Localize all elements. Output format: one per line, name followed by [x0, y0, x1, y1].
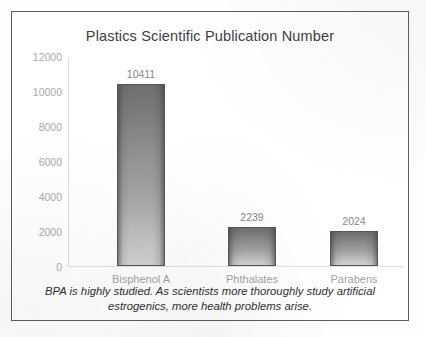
- x-axis-line: [68, 266, 403, 267]
- bar-value-label: 2024: [342, 215, 365, 227]
- scanned-page: Plastics Scientific Publication Number 1…: [0, 0, 426, 337]
- bar-value-label: 2239: [240, 211, 263, 223]
- bar-parabens[interactable]: [330, 231, 378, 266]
- y-tick-label: 10000: [33, 86, 62, 98]
- y-tick-label: 12000: [33, 51, 62, 63]
- caption-line-2: estrogenics, more health problems arise.: [26, 299, 394, 314]
- y-tick-label: 2000: [39, 226, 62, 238]
- bar-chart-plot-area: 12000 10000 8000 6000 4000 2000 0 10411 …: [68, 57, 403, 267]
- y-axis-line: [68, 57, 69, 267]
- figure-frame: Plastics Scientific Publication Number 1…: [11, 11, 409, 321]
- y-tick-label: 6000: [39, 156, 62, 168]
- y-tick-label: 4000: [39, 191, 62, 203]
- y-tick-label: 8000: [39, 121, 62, 133]
- bar-value-label: 10411: [127, 68, 155, 80]
- bar-bisphenol-a[interactable]: [117, 84, 165, 266]
- page-title: Plastics Scientific Publication Number: [12, 28, 408, 44]
- y-tick-label: 0: [56, 261, 62, 273]
- figure-caption: BPA is highly studied. As scientists mor…: [26, 284, 394, 314]
- bar-phthalates[interactable]: [228, 227, 276, 266]
- caption-line-1: BPA is highly studied. As scientists mor…: [26, 284, 394, 299]
